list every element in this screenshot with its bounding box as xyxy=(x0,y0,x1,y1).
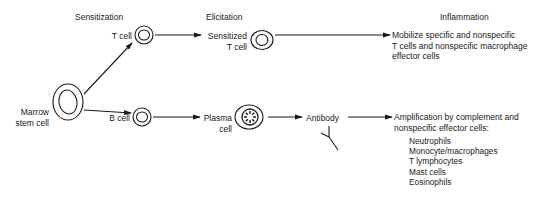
effector-item: Mast cells xyxy=(409,167,498,177)
antibody-icon xyxy=(321,126,338,150)
sensitized-t-cell-label: Sensitized T cell xyxy=(200,31,247,52)
sensitized-t-cell-icon xyxy=(251,31,273,50)
antibody-label: Antibody xyxy=(306,113,339,124)
effector-item: T lymphocytes xyxy=(409,156,498,166)
b-cell-icon xyxy=(133,108,151,126)
marrow-stem-cell-icon xyxy=(53,84,83,120)
t-cell-icon xyxy=(135,26,153,44)
arrow-marrow-to-t xyxy=(84,43,132,94)
stage-sensitization: Sensitization xyxy=(75,12,123,22)
effector-item: Eosinophils xyxy=(409,177,498,187)
effector-cell-list: Neutrophils Monocyte/macrophages T lymph… xyxy=(409,136,498,187)
effector-item: Neutrophils xyxy=(409,136,498,146)
effector-item: Monocyte/macrophages xyxy=(409,146,498,156)
stage-elicitation: Elicitation xyxy=(206,12,242,22)
plasma-cell-label: Plasma cell xyxy=(200,113,232,134)
plasma-cell-icon xyxy=(235,105,263,129)
t-path-outcome: Mobilize specific and nonspecific T cell… xyxy=(392,30,527,62)
stage-inflammation: Inflammation xyxy=(440,12,489,22)
t-cell-label: T cell xyxy=(100,31,132,42)
marrow-stem-cell-label: Marrow stem cell xyxy=(0,107,49,128)
b-path-outcome: Amplification by complement and nonspeci… xyxy=(394,112,519,133)
b-cell-label: B cell xyxy=(100,113,130,124)
